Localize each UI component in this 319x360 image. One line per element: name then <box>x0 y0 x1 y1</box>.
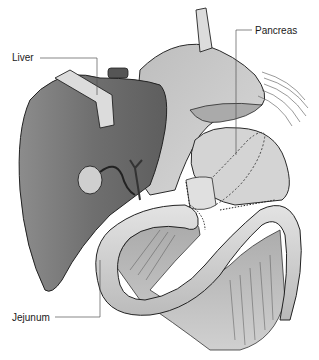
liver-label: Liver <box>12 53 34 63</box>
vessel-stub <box>108 68 128 78</box>
pancreas-label: Pancreas <box>255 26 297 36</box>
anastomosis-patch <box>186 177 216 210</box>
jejunum-label: Jejunum <box>12 313 50 323</box>
illustration-canvas <box>0 0 319 360</box>
upper-fan-tissue <box>258 72 308 126</box>
anatomy-figure: Liver Pancreas Jejunum <box>0 0 319 360</box>
